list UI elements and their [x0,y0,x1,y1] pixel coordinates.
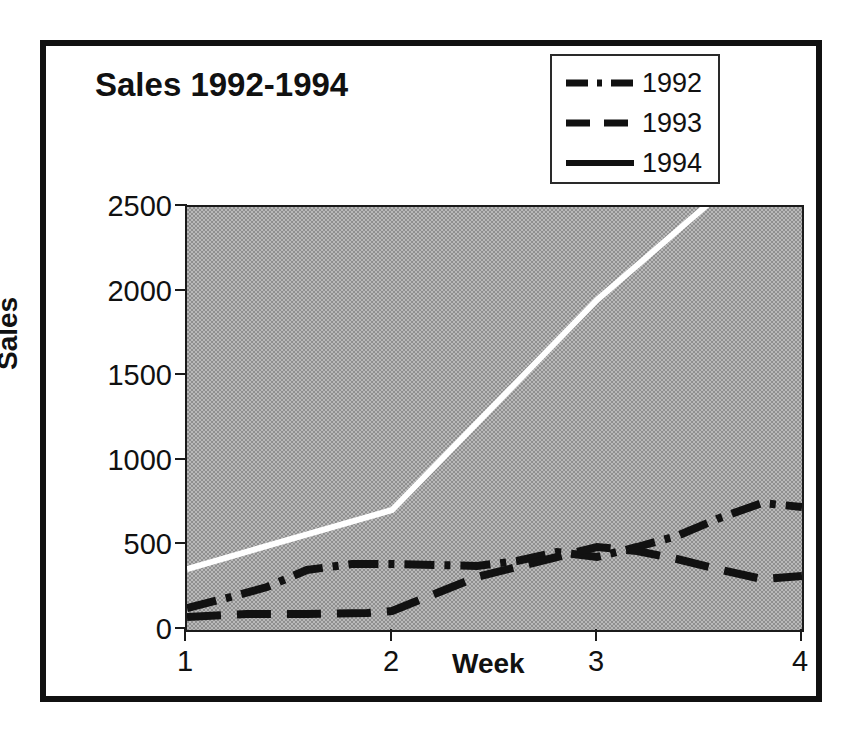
legend-label-1994: 1994 [642,150,702,177]
plot-series-group [187,207,802,630]
legend-swatch-dashed-icon [564,116,636,130]
y-tick-label-2500: 2500 [62,190,172,223]
y-tick-label-1500: 1500 [62,359,172,392]
legend-swatch-dash-dot-icon [564,76,636,90]
legend-label-1993: 1993 [642,110,702,137]
x-tick-label-2: 2 [383,645,399,678]
series-line-1993 [187,547,802,617]
chart-screenshot: Sales 1992-1994 1992 1993 1994 2500 2000… [0,0,864,742]
y-tick-label-2000: 2000 [62,275,172,308]
chart-legend: 1992 1993 1994 [550,54,720,184]
chart-title: Sales 1992-1994 [95,66,348,104]
series-line-1994 [187,207,802,569]
y-axis-title: Sales [0,297,24,370]
y-tick-label-0: 0 [62,613,172,646]
legend-swatch-solid-icon [564,156,636,170]
legend-entry-1992[interactable]: 1992 [552,63,718,103]
y-tick-label-1000: 1000 [62,444,172,477]
legend-entry-1993[interactable]: 1993 [552,103,718,143]
plot-area [185,205,804,632]
legend-entry-1994[interactable]: 1994 [552,143,718,183]
x-tick-mark-4 [800,629,802,641]
x-tick-mark-3 [595,629,597,641]
series-line-1992 [187,503,802,608]
x-tick-mark-2 [390,629,392,641]
x-tick-label-1: 1 [177,645,193,678]
x-tick-label-4: 4 [792,645,808,678]
x-axis-title: Week [452,648,525,680]
x-tick-mark-1 [184,629,186,641]
y-tick-label-500: 500 [62,528,172,561]
legend-label-1992: 1992 [642,70,702,97]
x-tick-label-3: 3 [588,645,604,678]
